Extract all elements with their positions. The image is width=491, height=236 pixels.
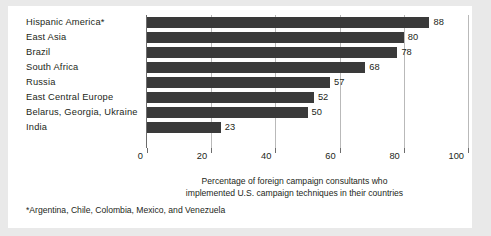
bar-value-label: 57 — [334, 77, 344, 88]
x-axis-tick — [404, 148, 405, 153]
bar — [147, 47, 397, 58]
bar-value-label: 23 — [225, 122, 235, 133]
bar — [147, 122, 221, 133]
x-axis-tick — [340, 148, 341, 153]
bar — [147, 107, 308, 118]
axis-caption-line-1: Percentage of foreign campaign consultan… — [129, 176, 460, 188]
footnote: *Argentina, Chile, Colombia, Mexico, and… — [26, 205, 225, 215]
plot-area: Hispanic America*East AsiaBrazilSouth Af… — [26, 14, 460, 154]
bar — [147, 92, 314, 103]
bar — [147, 77, 330, 88]
gridline — [404, 15, 405, 148]
x-axis-tick-label: 80 — [360, 151, 400, 161]
x-axis-tick — [468, 148, 469, 153]
bar-value-label: 88 — [433, 17, 443, 28]
x-axis: 020406080100 — [26, 148, 460, 168]
bar — [147, 32, 404, 43]
x-axis-tick-label: 60 — [296, 151, 336, 161]
x-axis-tick-label: 100 — [424, 151, 464, 161]
bar-value-label: 80 — [408, 32, 418, 43]
bar-value-label: 68 — [369, 62, 379, 73]
bars-container: 8880786857525023 — [26, 14, 460, 148]
x-axis-tick-label: 40 — [231, 151, 271, 161]
x-axis-tick-label: 0 — [103, 151, 143, 161]
bar-value-label: 52 — [318, 92, 328, 103]
axis-caption: Percentage of foreign campaign consultan… — [129, 176, 460, 199]
bar-value-label: 78 — [401, 47, 411, 58]
x-axis-tick-label: 20 — [167, 151, 207, 161]
bar — [147, 62, 365, 73]
x-axis-tick — [147, 148, 148, 153]
chart-figure: Hispanic America*East AsiaBrazilSouth Af… — [8, 6, 472, 228]
gridline — [468, 15, 469, 148]
x-axis-tick — [275, 148, 276, 153]
axis-caption-line-2: implemented U.S. campaign techniques in … — [129, 188, 460, 200]
x-axis-tick — [211, 148, 212, 153]
bar-value-label: 50 — [312, 107, 322, 118]
bar — [147, 17, 429, 28]
